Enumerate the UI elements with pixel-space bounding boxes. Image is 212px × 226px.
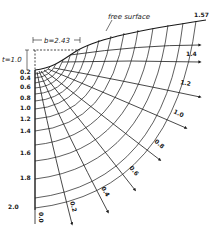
left-axis-labels: 0.2 0.4 0.6 0.8 1.0 1.2 1.4 1.6 1.8 2.0 <box>8 68 31 210</box>
free-surface-label: free surface <box>108 13 150 21</box>
svg-text:0.4: 0.4 <box>20 74 31 81</box>
dimension-t-label: t=1.0 <box>2 56 22 64</box>
dimension-b-label: b=2.43 <box>44 37 70 45</box>
svg-text:0.2: 0.2 <box>69 200 79 212</box>
svg-text:1.8: 1.8 <box>20 174 31 181</box>
svg-text:0.6: 0.6 <box>128 164 140 177</box>
svg-text:1.6: 1.6 <box>20 149 31 156</box>
svg-text:1.4: 1.4 <box>20 127 31 134</box>
streamlines <box>35 45 200 224</box>
svg-text:1.2: 1.2 <box>20 115 31 122</box>
svg-text:0.0: 0.0 <box>38 212 45 223</box>
svg-text:0.8: 0.8 <box>153 137 166 149</box>
svg-text:1.4: 1.4 <box>186 50 197 57</box>
flow-net-diagram: b=2.43 t=1.0 free surface 0.2 <box>0 0 212 226</box>
svg-text:1.0: 1.0 <box>173 108 186 119</box>
svg-text:1.0: 1.0 <box>20 104 31 111</box>
svg-text:0.8: 0.8 <box>20 94 31 101</box>
svg-text:2.0: 2.0 <box>8 203 19 210</box>
svg-text:1.57: 1.57 <box>194 11 209 18</box>
svg-text:0.6: 0.6 <box>20 83 31 90</box>
svg-text:0.4: 0.4 <box>100 185 111 198</box>
